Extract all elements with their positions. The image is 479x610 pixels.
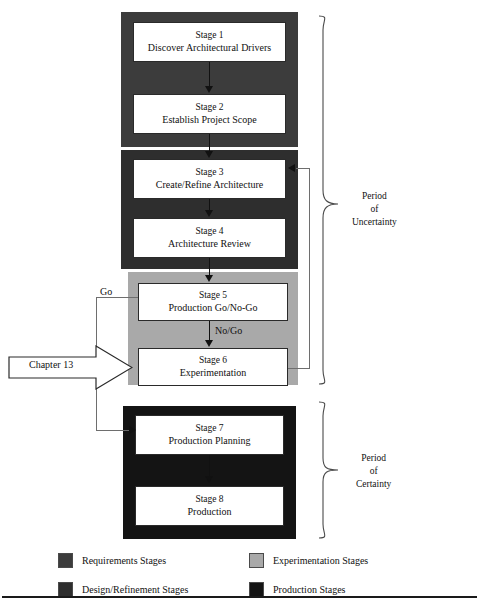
stage3-name: Create/Refine Architecture: [156, 179, 263, 192]
legend-label-design-refinement: Design/Refinement Stages: [82, 584, 188, 595]
stage-box-stage1[interactable]: Stage 1 Discover Architectural Drivers: [133, 22, 286, 62]
arrowhead-stage1-to-stage2: [205, 86, 213, 93]
stage5-number: Stage 5: [199, 290, 227, 302]
stage-box-stage3[interactable]: Stage 3 Create/Refine Architecture: [133, 159, 286, 199]
bottom-rule: [2, 596, 477, 598]
stage1-name: Discover Architectural Drivers: [148, 42, 271, 55]
legend-label-requirements: Requirements Stages: [82, 555, 166, 566]
connector-stage2-to-stage3: [209, 134, 210, 152]
bracket-period-certainty: [316, 400, 344, 540]
period-label-uncertainty: Period of Uncertainty: [352, 190, 397, 228]
connector-stage5-to-stage6: [209, 321, 210, 341]
arrowhead-stage4-to-stage5: [205, 275, 213, 282]
legend-swatch-design-refinement: [58, 582, 73, 597]
edge-label-no-go: No/Go: [215, 325, 242, 336]
bracket-uncertainty-shape: [316, 14, 344, 386]
period-certainty-line3: Certainty: [356, 478, 391, 491]
connector-feedback-up: [309, 168, 310, 368]
connector-go-segment-out: [96, 297, 138, 298]
stage2-number: Stage 2: [195, 102, 223, 114]
arrowhead-go-into-stage7: [129, 426, 136, 434]
connector-feedback-into-stage3: [296, 168, 310, 169]
stage7-number: Stage 7: [195, 423, 223, 435]
arrowhead-stage5-to-stage6: [205, 340, 213, 347]
stage-box-stage7[interactable]: Stage 7 Production Planning: [135, 415, 284, 455]
legend-item-requirements: Requirements Stages: [58, 553, 166, 568]
period-uncertainty-line3: Uncertainty: [352, 216, 397, 229]
legend-item-design-refinement: Design/Refinement Stages: [58, 582, 188, 597]
legend-label-experimentation: Experimentation Stages: [273, 555, 368, 566]
stage8-number: Stage 8: [195, 494, 223, 506]
bracket-certainty-shape: [316, 400, 344, 540]
stage6-name: Experimentation: [180, 367, 247, 380]
arrowhead-feedback-into-stage3: [288, 164, 295, 172]
period-uncertainty-line2: of: [352, 203, 397, 216]
stage7-name: Production Planning: [169, 435, 251, 448]
stage1-number: Stage 1: [195, 30, 223, 42]
stage3-number: Stage 3: [195, 167, 223, 179]
stage-box-stage6[interactable]: Stage 6 Experimentation: [138, 348, 288, 386]
stage-box-stage4[interactable]: Stage 4 Architecture Review: [133, 218, 286, 258]
stage4-number: Stage 4: [195, 226, 223, 238]
stage-box-stage8[interactable]: Stage 8 Production: [135, 486, 284, 526]
chapter-callout-label: Chapter 13: [29, 359, 73, 370]
legend-swatch-experimentation: [249, 553, 264, 568]
period-label-certainty: Period of Certainty: [356, 452, 391, 490]
legend: Requirements Stages Experimentation Stag…: [0, 547, 479, 610]
period-uncertainty-line1: Period: [352, 190, 397, 203]
connector-stage1-to-stage2: [209, 62, 210, 87]
legend-item-production: Production Stages: [249, 582, 346, 597]
stage6-number: Stage 6: [199, 355, 227, 367]
connector-feedback-out-of-stage6: [288, 368, 310, 369]
legend-swatch-production: [249, 582, 264, 597]
stage2-name: Establish Project Scope: [162, 114, 256, 127]
arrowhead-stage2-to-stage3: [205, 151, 213, 158]
bracket-period-uncertainty: [316, 14, 344, 386]
stage5-name: Production Go/No-Go: [168, 302, 257, 315]
connector-stage7-to-stage8: [209, 455, 210, 477]
stage-box-stage5[interactable]: Stage 5 Production Go/No-Go: [138, 283, 288, 321]
process-flow-diagram: Stage 1 Discover Architectural Drivers S…: [0, 0, 479, 610]
period-certainty-line1: Period: [356, 452, 391, 465]
stage8-name: Production: [188, 506, 232, 519]
legend-swatch-requirements: [58, 553, 73, 568]
connector-go-segment-in: [96, 430, 131, 431]
period-certainty-line2: of: [356, 465, 391, 478]
legend-item-experimentation: Experimentation Stages: [249, 553, 368, 568]
connector-stage4-to-stage5: [209, 258, 210, 276]
legend-label-production: Production Stages: [273, 584, 346, 595]
edge-label-go: Go: [100, 286, 112, 297]
arrowhead-stage7-to-stage8: [205, 476, 213, 483]
arrowhead-stage3-to-stage4: [205, 210, 213, 217]
stage-box-stage2[interactable]: Stage 2 Establish Project Scope: [133, 94, 286, 134]
stage4-name: Architecture Review: [168, 238, 251, 251]
